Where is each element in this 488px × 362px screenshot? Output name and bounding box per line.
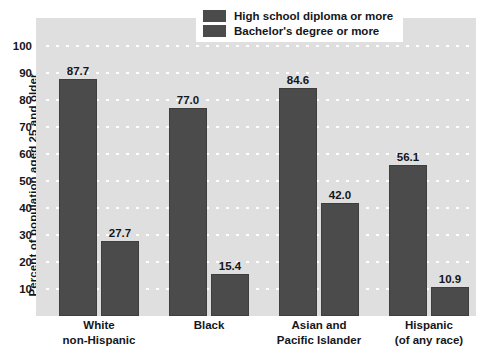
bar[interactable]: 84.6 [279, 88, 317, 316]
y-tick-label: 10 [2, 283, 32, 295]
y-tick-label: 90 [2, 67, 32, 79]
bar[interactable]: 15.4 [211, 274, 249, 316]
x-axis-label: Whitenon-Hispanic [63, 318, 136, 348]
x-axis-label-line: Black [194, 318, 225, 333]
chart-legend: High school diploma or more Bachelor's d… [196, 5, 403, 42]
x-axis-label: Black [194, 318, 225, 333]
y-tick-label: 80 [2, 94, 32, 106]
x-axis-label: Hispanic(of any race) [395, 318, 463, 348]
bar-value-label: 56.1 [397, 151, 419, 163]
bar-value-label: 42.0 [329, 189, 351, 201]
x-axis-label: Asian andPacific Islander [277, 318, 361, 348]
bar-chart: Percent of population aged 25 and older … [0, 0, 488, 362]
y-tick-label: 70 [2, 121, 32, 133]
legend-label: Bachelor's degree or more [234, 25, 379, 37]
x-axis-label-line: Hispanic [395, 318, 463, 333]
y-tick-label: 50 [2, 175, 32, 187]
bar-value-label: 10.9 [439, 273, 461, 285]
bar-value-label: 77.0 [177, 94, 199, 106]
bar[interactable]: 42.0 [321, 203, 359, 316]
legend-swatch-icon [203, 25, 226, 37]
y-tick-label: 30 [2, 229, 32, 241]
y-tick-label: 60 [2, 148, 32, 160]
bar[interactable]: 56.1 [389, 165, 427, 316]
y-tick-label: 100 [2, 40, 32, 52]
bar[interactable]: 10.9 [431, 287, 469, 316]
bar-value-label: 84.6 [287, 74, 309, 86]
legend-swatch-icon [203, 10, 226, 22]
plot-area: 87.727.777.015.484.642.056.110.9 1009080… [36, 18, 476, 316]
bar[interactable]: 77.0 [169, 108, 207, 316]
y-tick-label: 40 [2, 202, 32, 214]
x-axis-label-line: White [63, 318, 136, 333]
x-axis-label-line: non-Hispanic [63, 333, 136, 348]
bar[interactable]: 27.7 [101, 241, 139, 316]
y-tick-label: 20 [2, 256, 32, 268]
x-axis-label-line: Asian and [277, 318, 361, 333]
legend-label: High school diploma or more [234, 10, 393, 22]
legend-item-bachelors: Bachelor's degree or more [203, 25, 393, 37]
x-axis-label-line: (of any race) [395, 333, 463, 348]
bars-layer: 87.727.777.015.484.642.056.110.9 [36, 18, 476, 316]
bar-value-label: 87.7 [67, 65, 89, 77]
bar-value-label: 27.7 [109, 227, 131, 239]
x-axis-labels: Whitenon-HispanicBlackAsian andPacific I… [36, 318, 476, 360]
bar[interactable]: 87.7 [59, 79, 97, 316]
x-axis-label-line: Pacific Islander [277, 333, 361, 348]
legend-item-high-school: High school diploma or more [203, 10, 393, 22]
bar-value-label: 15.4 [219, 260, 241, 272]
